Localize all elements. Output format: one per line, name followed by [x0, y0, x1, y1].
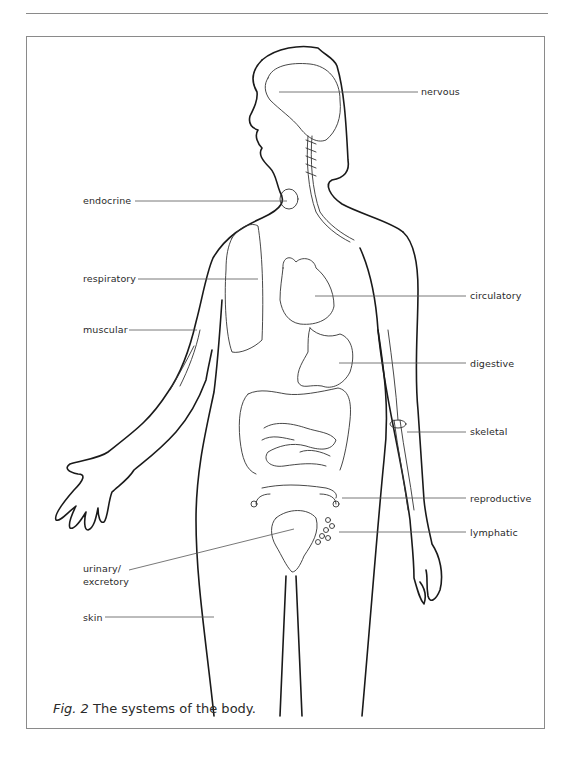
label-circulatory: circulatory [470, 290, 521, 301]
label-digestive: digestive [470, 358, 514, 369]
lymph-nodes [316, 518, 335, 545]
colon [239, 388, 350, 474]
label-reproductive: reproductive [470, 493, 531, 504]
label-skeletal: skeletal [470, 426, 507, 437]
body-outline [56, 47, 442, 717]
bladder [272, 511, 318, 573]
uterus [262, 485, 337, 498]
brain [265, 64, 340, 142]
lung [225, 225, 263, 353]
label-endocrine: endocrine [83, 195, 131, 206]
label-lymphatic: lymphatic [470, 527, 518, 538]
figure-caption: Fig. 2 The systems of the body. [53, 701, 256, 716]
figure-caption-text: The systems of the body. [93, 701, 256, 716]
label-respiratory: respiratory [83, 273, 136, 284]
small-intestine [264, 423, 336, 466]
label-skin: skin [83, 612, 103, 623]
leader-line-urinary [129, 529, 294, 570]
figure-number: Fig. 2 [53, 701, 89, 716]
label-muscular: muscular [83, 324, 128, 335]
heart [280, 258, 334, 325]
label-urinary: urinary/ [83, 563, 121, 574]
stomach [298, 328, 353, 387]
label-nervous: nervous [421, 86, 460, 97]
label-excretory: excretory [83, 576, 129, 587]
body-systems-illustration [0, 0, 573, 763]
